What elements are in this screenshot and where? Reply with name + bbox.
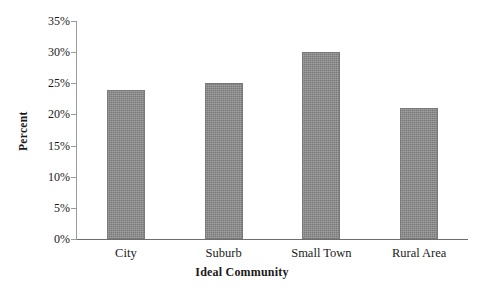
bar-group — [370, 21, 468, 239]
y-axis-tick-mark — [71, 177, 77, 178]
y-axis-tick-label: 30% — [28, 46, 70, 58]
y-axis-tick-mark — [71, 83, 77, 84]
bar[interactable] — [302, 52, 340, 239]
y-axis-tick-label: 15% — [28, 140, 70, 152]
bar-group — [273, 21, 371, 239]
y-axis-tick-label: 35% — [28, 15, 70, 27]
bar-group — [175, 21, 273, 239]
x-axis-tick-label: Suburb — [175, 245, 273, 261]
bar-chart: Percent 0%5%10%15%20%25%30%35% CitySubur… — [0, 0, 484, 296]
x-axis-line — [76, 239, 468, 240]
x-axis-tick-label-group: CitySuburbSmall TownRural Area — [77, 245, 468, 265]
y-axis-tick-mark — [71, 21, 77, 22]
x-axis-title: Ideal Community — [0, 265, 484, 280]
x-axis-tick-label: Small Town — [273, 245, 371, 261]
y-axis-tick-mark — [71, 239, 77, 240]
y-axis-tick-label: 0% — [28, 233, 70, 245]
bar[interactable] — [205, 83, 243, 239]
y-axis-tick-mark — [71, 146, 77, 147]
bar-group — [77, 21, 175, 239]
plot-area — [77, 21, 468, 239]
y-axis-tick-mark — [71, 114, 77, 115]
y-axis-tick-label-group: 0%5%10%15%20%25%30%35% — [28, 0, 70, 296]
bar[interactable] — [107, 90, 145, 239]
y-axis-tick-label: 25% — [28, 77, 70, 89]
y-axis-tick-label: 10% — [28, 171, 70, 183]
y-axis-tick-mark — [71, 208, 77, 209]
y-axis-tick-label: 20% — [28, 108, 70, 120]
x-axis-tick-label: City — [77, 245, 175, 261]
y-axis-tick-label: 5% — [28, 202, 70, 214]
x-axis-tick-label: Rural Area — [370, 245, 468, 261]
bar[interactable] — [400, 108, 438, 239]
y-axis-tick-mark — [71, 52, 77, 53]
